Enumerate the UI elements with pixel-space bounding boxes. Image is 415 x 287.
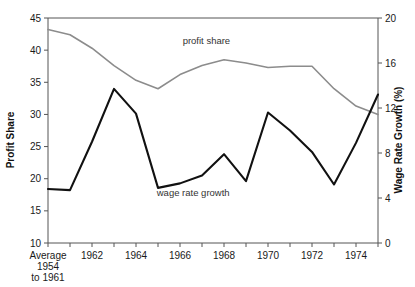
- left-axis-title: Profit Share: [5, 111, 16, 168]
- x-tick-label: 1966: [169, 250, 192, 261]
- right-tick-label: 4: [385, 193, 391, 204]
- chart-figure: 1015202530354045 048121620 Average1954to…: [0, 0, 415, 287]
- left-tick-label: 30: [30, 109, 42, 120]
- x-tick-label: to 1961: [31, 272, 65, 283]
- x-tick-label: 1962: [81, 250, 104, 261]
- x-tick-label: 1954: [37, 261, 60, 272]
- x-tick-label: 1970: [257, 250, 280, 261]
- left-tick-label: 15: [30, 205, 42, 216]
- profit-share-wage-growth-chart: 1015202530354045 048121620 Average1954to…: [0, 0, 415, 287]
- x-tick-label: 1972: [301, 250, 324, 261]
- annotation-wage-rate-growth: wage rate growth: [156, 187, 230, 198]
- left-tick-label: 45: [30, 13, 42, 24]
- right-tick-label: 8: [385, 148, 391, 159]
- right-tick-label: 20: [385, 13, 397, 24]
- left-tick-label: 10: [30, 238, 42, 249]
- left-tick-label: 40: [30, 45, 42, 56]
- right-tick-label: 16: [385, 58, 397, 69]
- x-tick-label: Average: [29, 250, 67, 261]
- x-tick-label: 1968: [213, 250, 236, 261]
- annotation-profit-share: profit share: [183, 35, 231, 46]
- x-tick-label: 1974: [345, 250, 368, 261]
- left-tick-label: 20: [30, 173, 42, 184]
- x-tick-label: 1964: [125, 250, 148, 261]
- right-tick-label: 0: [385, 238, 391, 249]
- left-tick-label: 35: [30, 77, 42, 88]
- right-axis-title: Wage Rate Growth (%): [393, 87, 404, 194]
- left-tick-label: 25: [30, 141, 42, 152]
